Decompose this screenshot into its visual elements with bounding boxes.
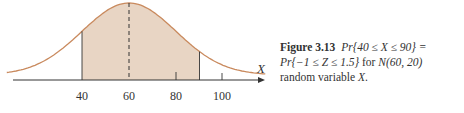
caption-distribution: N(60, 20) [378,56,422,68]
caption-for: for [359,56,378,68]
x-axis-label: X [256,61,266,76]
tick-label-100: 100 [213,89,231,103]
figure-caption: Figure 3.13 Pr{40 ≤ X ≤ 90} = Pr{−1 ≤ Z … [280,40,464,85]
tick-label-80: 80 [170,89,182,103]
caption-variable: X [358,71,365,83]
tick-label-60: 60 [123,89,135,103]
tick-label-40: 40 [76,89,88,103]
shaded-area-40-to-90 [82,3,200,80]
normal-distribution-figure: X 40 60 80 100 [0,0,270,113]
caption-line3: random variable [280,71,358,83]
caption-period: . [365,71,368,83]
caption-line1: Pr{40 ≤ X ≤ 90} = [341,41,426,53]
x-axis-arrow-icon [258,77,265,83]
caption-line2: Pr{−1 ≤ Z ≤ 1.5} [280,56,359,68]
figure-number: Figure 3.13 [280,41,335,53]
